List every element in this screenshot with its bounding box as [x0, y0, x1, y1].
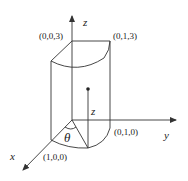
cylinder-wedge-diagram: z y x (0,0,3) (0,1,3) (0,1,0) (1,0,0) z …: [0, 0, 188, 181]
height-label: z: [90, 105, 96, 117]
top-arc: [51, 41, 110, 67]
theta-arc: [65, 127, 76, 129]
sample-point: [86, 87, 90, 91]
radial-line: [72, 120, 88, 148]
x-axis: [23, 120, 72, 170]
point-label-0-0-3: (0,0,3): [39, 31, 63, 41]
x-axis-label: x: [9, 150, 15, 162]
y-axis-label: y: [163, 129, 169, 141]
point-label-1-0-0: (1,0,0): [43, 152, 67, 162]
point-label-0-1-0: (0,1,0): [114, 127, 138, 137]
top-edge-x: [51, 41, 72, 61]
theta-label: θ: [64, 130, 71, 145]
point-label-0-1-3: (0,1,3): [113, 31, 137, 41]
z-axis-label: z: [82, 16, 88, 28]
